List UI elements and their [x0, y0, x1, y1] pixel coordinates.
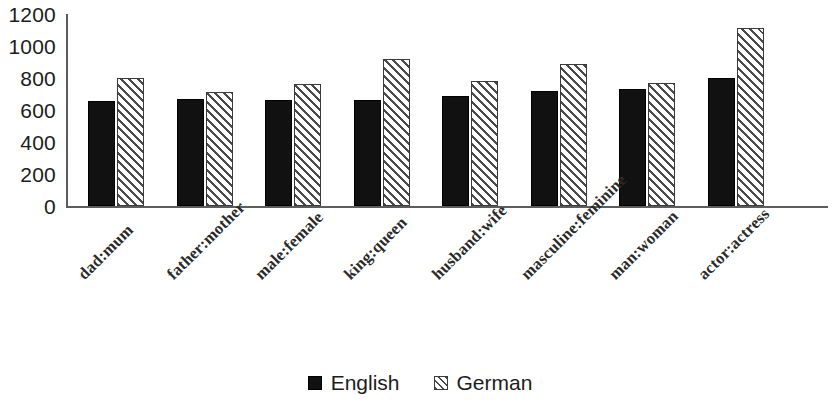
legend-label-german: German — [457, 372, 533, 393]
bar-chart: 020040060080010001200 dad:mumfather:moth… — [0, 0, 840, 404]
x-axis-label-king-queen: king:queen — [340, 213, 411, 284]
chart-legend: EnglishGerman — [0, 372, 840, 393]
legend-swatch-icon-english — [308, 376, 322, 390]
legend-swatch-icon-german — [434, 376, 448, 390]
legend-entry-english: English — [308, 372, 400, 393]
x-axis-label-man-woman: man:woman — [605, 206, 683, 284]
legend-entry-german: German — [434, 372, 533, 393]
x-axis-label-husband-wife: husband:wife — [428, 201, 511, 284]
x-axis-label-actor-actress: actor:actress — [694, 204, 774, 284]
x-axis-label-dad-mum: dad:mum — [74, 220, 138, 284]
legend-label-english: English — [331, 372, 400, 393]
x-axis-category-labels: dad:mumfather:mothermale:femaleking:quee… — [0, 0, 840, 404]
x-axis-label-father-mother: father:mother — [163, 198, 250, 285]
x-axis-label-male-female: male:female — [251, 208, 328, 285]
